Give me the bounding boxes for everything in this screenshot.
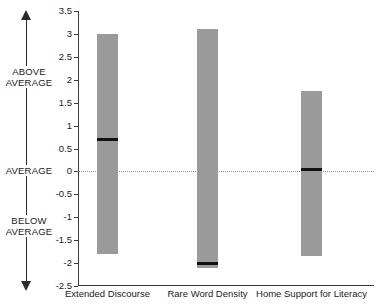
y-tick-label: 1 [48,121,72,131]
y-axis-line [78,11,79,286]
y-tick-mark [74,286,78,287]
y-tick-mark [74,217,78,218]
range-bar [301,91,322,256]
y-axis-tick-labels: 3.532.521.510.50-0.5-1-1.5-2-2.5 [46,11,72,286]
y-tick-mark [74,57,78,58]
annotation-axis-line [26,18,27,283]
median-marker [97,138,118,141]
y-tick-label: 0 [48,166,72,176]
y-tick-label: -1.5 [48,235,72,245]
chart-figure: ABOVE AVERAGE AVERAGE BELOW AVERAGE 3.53… [0,0,379,304]
y-tick-label: -2 [48,258,72,268]
y-tick-mark [74,263,78,264]
y-tick-mark [74,126,78,127]
category-label: Home Support for Literacy [242,288,379,300]
y-tick-mark [74,149,78,150]
y-tick-label: 1.5 [48,98,72,108]
y-tick-label: -1 [48,212,72,222]
y-tick-label: 3 [48,29,72,39]
y-tick-mark [74,194,78,195]
zero-reference-line [78,171,374,172]
y-tick-label: 3.5 [48,6,72,16]
y-tick-label: -0.5 [48,189,72,199]
range-bar [97,34,118,254]
median-marker [301,168,322,171]
range-bar [197,29,218,267]
plot-area: 3.532.521.510.50-0.5-1-1.5-2-2.5 [78,11,374,286]
arrow-down-icon [21,281,31,291]
y-tick-label: 2 [48,75,72,85]
median-marker [197,262,218,265]
y-tick-mark [74,34,78,35]
y-tick-label: 0.5 [48,144,72,154]
y-tick-mark [74,240,78,241]
x-axis-category-labels: Extended DiscourseRare Word DensityHome … [78,288,379,304]
y-tick-mark [74,80,78,81]
x-axis-line [78,285,374,286]
y-tick-mark [74,103,78,104]
y-tick-mark [74,11,78,12]
y-tick-label: 2.5 [48,52,72,62]
